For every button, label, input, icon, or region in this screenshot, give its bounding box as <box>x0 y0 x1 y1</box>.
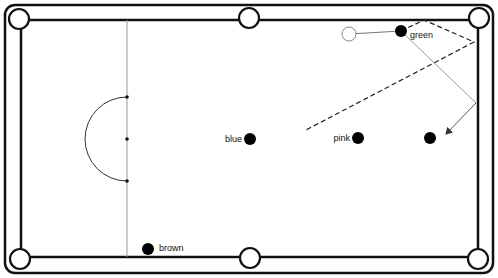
cue-ball-dashed-path <box>304 20 474 131</box>
pocket-top-middle <box>239 8 259 28</box>
cue-ball <box>342 27 356 41</box>
pocket-top-right <box>469 8 489 28</box>
spot-marker <box>125 179 129 183</box>
ball-label-blue: blue <box>225 134 242 144</box>
baulk-d <box>85 97 127 181</box>
snooker-table-diagram: greenbluepinkbrown <box>0 0 498 278</box>
ball-pink <box>352 132 364 144</box>
balls: greenbluepinkbrown <box>142 25 436 255</box>
ball-label-green: green <box>410 30 433 40</box>
ball-green <box>395 25 407 37</box>
pocket-bottom-middle <box>240 248 260 268</box>
rebound-arrow-icon <box>446 103 476 134</box>
pocket-bottom-right <box>468 249 488 269</box>
spot-marker <box>125 95 129 99</box>
shot-paths <box>304 20 476 134</box>
object-ball-path <box>401 31 476 103</box>
pocket-top-left <box>9 9 29 29</box>
ball-brown <box>142 243 154 255</box>
ball-black <box>424 132 436 144</box>
ball-label-pink: pink <box>333 133 350 143</box>
ball-label-brown: brown <box>159 243 184 253</box>
spot-marker <box>125 137 129 141</box>
cue-line <box>349 31 401 34</box>
pocket-bottom-left <box>10 249 30 269</box>
ball-blue <box>244 133 256 145</box>
